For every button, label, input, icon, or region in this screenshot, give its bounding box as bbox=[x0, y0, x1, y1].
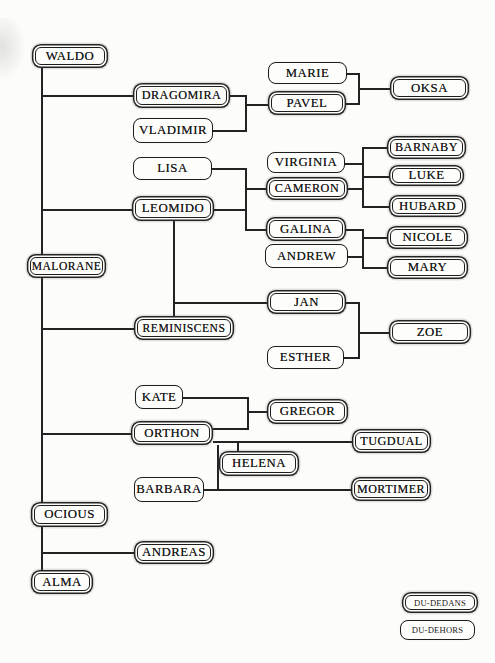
node-reminiscens: REMINISCENS bbox=[137, 319, 231, 337]
connector-line bbox=[41, 68, 43, 573]
connector-line bbox=[245, 229, 268, 231]
connector-line bbox=[345, 163, 364, 165]
connector-line bbox=[358, 302, 360, 359]
connector-line bbox=[247, 397, 249, 430]
node-andreas: ANDREAS bbox=[137, 544, 211, 561]
connector-line bbox=[245, 168, 247, 231]
node-barnaby: BARNABY bbox=[390, 139, 463, 156]
connector-line bbox=[362, 267, 389, 269]
node-malorane: MALORANE bbox=[30, 257, 103, 275]
connector-line bbox=[247, 411, 269, 413]
node-orthon: ORTHON bbox=[134, 424, 210, 442]
connector-line bbox=[344, 357, 360, 359]
connector-line bbox=[245, 95, 247, 132]
connector-line bbox=[204, 489, 353, 491]
node-tugdual: TUGDUAL bbox=[355, 432, 428, 450]
node-helena: HELENA bbox=[222, 454, 296, 473]
node-leomido: LEOMIDO bbox=[135, 199, 211, 218]
connector-line bbox=[362, 147, 389, 149]
connector-line bbox=[41, 209, 134, 211]
node-andrew: ANDREW bbox=[265, 244, 348, 268]
connector-line bbox=[245, 104, 270, 106]
node-kate: KATE bbox=[135, 385, 183, 409]
connector-line bbox=[346, 103, 360, 105]
node-cameron: CAMERON bbox=[269, 180, 345, 197]
node-nicole: NICOLE bbox=[390, 229, 465, 246]
connector-line bbox=[214, 209, 247, 211]
node-barbara: BARBARA bbox=[134, 477, 204, 502]
connector-line bbox=[212, 168, 247, 170]
node-gregor: GREGOR bbox=[270, 402, 345, 421]
connector-line bbox=[362, 229, 364, 269]
connector-line bbox=[41, 95, 135, 97]
connector-line bbox=[237, 441, 239, 454]
node-ocious: OCIOUS bbox=[34, 505, 105, 524]
node-alma: ALMA bbox=[34, 573, 90, 591]
connector-line bbox=[213, 441, 354, 443]
node-lisa: LISA bbox=[133, 157, 212, 180]
connector-line bbox=[346, 229, 364, 231]
connector-line bbox=[362, 206, 391, 208]
node-galina: GALINA bbox=[269, 220, 343, 238]
connector-line bbox=[41, 328, 136, 330]
legend-du-dedans: DU-DEDANS bbox=[405, 595, 475, 610]
node-luke: LUKE bbox=[392, 168, 461, 183]
node-waldo: WALDO bbox=[35, 47, 105, 65]
connector-line bbox=[362, 237, 389, 239]
connector-line bbox=[213, 130, 247, 132]
node-pavel: PAVEL bbox=[271, 94, 343, 112]
node-hubard: HUBARD bbox=[392, 198, 463, 214]
node-jan: JAN bbox=[270, 293, 343, 311]
connector-line bbox=[173, 302, 269, 304]
connector-line bbox=[362, 176, 391, 178]
connector-line bbox=[217, 445, 219, 491]
node-virginia: VIRGINIA bbox=[267, 152, 345, 173]
connector-line bbox=[213, 428, 249, 430]
node-mary: MARY bbox=[390, 259, 465, 276]
legend-du-dehors: DU-DEHORS bbox=[400, 620, 475, 640]
connector-line bbox=[245, 188, 268, 190]
node-vladimir: VLADIMIR bbox=[133, 118, 213, 143]
node-oksa: OKSA bbox=[393, 79, 466, 97]
connector-line bbox=[41, 552, 136, 554]
connector-line bbox=[41, 433, 133, 435]
node-marie: MARIE bbox=[268, 62, 347, 84]
node-dragomira: DRAGOMIRA bbox=[136, 86, 227, 105]
scan-smudge-artifact bbox=[0, 18, 26, 82]
connector-line bbox=[183, 397, 249, 399]
node-zoe: ZOE bbox=[392, 323, 468, 341]
node-esther: ESTHER bbox=[267, 346, 344, 369]
family-tree-page: WALDODRAGOMIRAVLADIMIRMARIEPAVELOKSALISA… bbox=[0, 0, 495, 663]
connector-line bbox=[358, 88, 392, 90]
node-mortimer: MORTIMER bbox=[354, 480, 428, 498]
connector-line bbox=[358, 332, 391, 334]
